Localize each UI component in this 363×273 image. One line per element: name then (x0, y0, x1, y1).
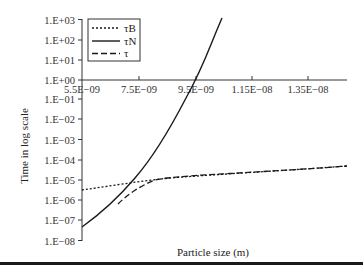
y-tick-label: 1.E−06 (44, 195, 75, 206)
series-tau (118, 166, 347, 204)
y-tick-label: 1.E+01 (44, 55, 75, 66)
y-tick-label: 1.E−05 (44, 175, 75, 186)
y-tick-label: 1.E−01 (44, 94, 75, 105)
legend-label: τN (124, 35, 136, 47)
x-ticks (139, 76, 308, 80)
series-tau-b (82, 166, 347, 190)
y-tick-labels: 1.E+03 1.E+02 1.E+01 1.E+00 1.E−01 1.E−0… (44, 15, 75, 247)
x-tick-label: 5.5E−09 (64, 84, 100, 95)
y-tick-label: 1.E+03 (44, 15, 75, 26)
y-axis-title: Time in log scale (18, 108, 30, 184)
legend-label: τ (124, 47, 129, 59)
y-tick-label: 1.E−07 (44, 215, 75, 226)
x-axis-title: Particle size (m) (177, 246, 249, 259)
y-tick-label: 1.E+02 (44, 35, 75, 46)
legend-label: τB (124, 22, 136, 34)
y-tick-label: 1.E−08 (44, 236, 75, 247)
chart: 1.E+03 1.E+02 1.E+01 1.E+00 1.E−01 1.E−0… (0, 0, 363, 273)
bottom-rule (0, 262, 363, 265)
x-tick-label: 1.35E−08 (287, 84, 328, 95)
y-tick-label: 1.E−03 (44, 135, 75, 146)
y-tick-label: 1.E−02 (44, 114, 75, 125)
x-tick-label: 9.5E−09 (178, 84, 214, 95)
x-tick-label: 7.5E−09 (121, 84, 157, 95)
y-ticks (78, 20, 82, 241)
x-tick-labels: 5.5E−09 7.5E−09 9.5E−09 1.15E−08 1.35E−0… (64, 84, 329, 95)
x-tick-label: 1.15E−08 (231, 84, 272, 95)
legend: τB τN τ (88, 19, 140, 61)
y-tick-label: 1.E−04 (44, 155, 75, 166)
